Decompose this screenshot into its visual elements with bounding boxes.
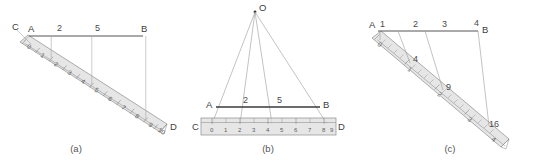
panel-c-ruler: 0 1 2 3 4 bbox=[372, 31, 509, 149]
panel-b-label-2: 2 bbox=[243, 95, 248, 105]
panel-a-label-5: 5 bbox=[95, 23, 100, 33]
panel-b-label-a: A bbox=[206, 99, 213, 110]
panel-c-label-3: 3 bbox=[442, 19, 447, 29]
geometry-figure: 0 1 2 3 4 5 6 7 8 9 10 bbox=[0, 0, 544, 167]
panel-a-ruler: 0 1 2 3 4 5 6 7 8 9 10 bbox=[20, 35, 167, 136]
panel-a-ruler-inner-edge bbox=[25, 43, 163, 131]
panel-c-label-a: A bbox=[369, 19, 376, 30]
panel-c: 0 1 2 3 4 4 9 16 A 1 bbox=[369, 18, 509, 154]
panel-a-label-2: 2 bbox=[57, 23, 62, 33]
panel-c-intersection-4: 4 bbox=[413, 54, 418, 64]
panel-a-caption: (a) bbox=[70, 143, 82, 154]
panel-c-label-2: 2 bbox=[413, 19, 418, 29]
panel-a: 0 1 2 3 4 5 6 7 8 9 10 bbox=[12, 21, 177, 154]
panel-b-label-c: C bbox=[192, 121, 199, 132]
figure-root: 0 1 2 3 4 5 6 7 8 9 10 bbox=[0, 0, 544, 167]
panel-b: O A 2 5 B bbox=[192, 2, 345, 154]
panel-b-label-d: D bbox=[338, 121, 345, 132]
panel-a-ruler-body bbox=[20, 35, 167, 132]
panel-b-label-b: B bbox=[323, 99, 329, 110]
panel-b-caption: (b) bbox=[262, 143, 274, 154]
panel-c-label-4: 4 bbox=[474, 18, 479, 28]
panel-c-label-b: B bbox=[482, 24, 488, 35]
panel-c-ruler-body bbox=[372, 31, 509, 147]
panel-b-label-5: 5 bbox=[277, 95, 282, 105]
panel-c-label-1: 1 bbox=[380, 19, 385, 29]
panel-c-caption: (c) bbox=[444, 143, 455, 154]
panel-a-label-d: D bbox=[170, 121, 177, 132]
panel-a-label-a: A bbox=[28, 23, 35, 34]
panel-c-intersection-9: 9 bbox=[446, 82, 451, 92]
panel-a-label-b: B bbox=[141, 23, 147, 34]
panel-b-label-o: O bbox=[259, 2, 266, 13]
panel-b-ruler: 0 1 2 3 4 5 6 7 8 9 bbox=[201, 118, 336, 135]
panel-c-intersection-16: 16 bbox=[489, 119, 499, 129]
panel-a-label-c: C bbox=[12, 21, 19, 32]
